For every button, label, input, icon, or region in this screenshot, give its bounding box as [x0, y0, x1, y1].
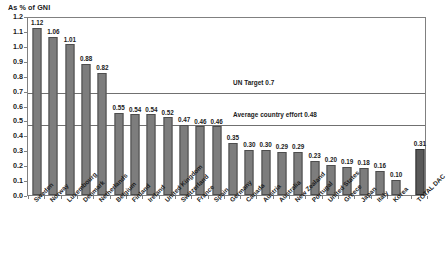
- y-axis-tick-label: 0.3: [13, 148, 23, 155]
- bar-group: 0.88: [78, 18, 94, 195]
- bar-group: 0.29: [290, 18, 306, 195]
- bar-value-label: 0.20: [325, 157, 337, 163]
- bar-value-label: 0.30: [243, 142, 255, 148]
- bar[interactable]: [33, 28, 42, 195]
- bar-value-label: 0.46: [211, 119, 223, 125]
- bar-group: 0.54: [127, 18, 143, 195]
- y-axis-tick-label: 0.2: [13, 163, 23, 170]
- bar-value-label: 1.06: [47, 29, 59, 35]
- bar-group: 0.19: [339, 18, 355, 195]
- bar-group: 0.82: [94, 18, 110, 195]
- bar-value-label: 1.12: [31, 20, 43, 26]
- bar-group: 0.30: [241, 18, 257, 195]
- bar-group: 0.30: [257, 18, 273, 195]
- y-axis-tick-label: 0.5: [13, 118, 23, 125]
- y-axis-tick-label: 0.6: [13, 103, 23, 110]
- bar-value-label: 0.54: [129, 107, 141, 113]
- bar-value-label: 0.47: [178, 117, 190, 123]
- bar-value-label: 0.35: [227, 135, 239, 141]
- y-axis-tick-label: 0.8: [13, 73, 23, 80]
- bar-value-label: 0.54: [145, 107, 157, 113]
- bar-value-label: 0.82: [96, 65, 108, 71]
- y-axis-tick-label: 0.9: [13, 58, 23, 65]
- bar[interactable]: [163, 117, 172, 195]
- bar-group: 0.35: [225, 18, 241, 195]
- bar-group: 0.20: [323, 18, 339, 195]
- bar-group: 0.29: [274, 18, 290, 195]
- bar-group: 1.12: [29, 18, 45, 195]
- y-axis-tick-label: 0.7: [13, 88, 23, 95]
- bar-group: 0.31: [412, 18, 428, 195]
- y-axis-tick-label: 0.4: [13, 133, 23, 140]
- bar-value-label: 0.29: [292, 144, 304, 150]
- bars-layer: 1.121.061.010.880.820.550.540.540.520.47…: [28, 18, 425, 195]
- y-axis-tick-label: 1.0: [13, 43, 23, 50]
- bar-group: 0.52: [160, 18, 176, 195]
- x-axis-labels: SwedenNorwayLuxembourgDenmarkNetherlands…: [27, 199, 426, 260]
- bar-value-label: 0.55: [113, 105, 125, 111]
- y-axis: 0.00.10.20.30.40.50.60.70.80.91.01.11.2: [0, 17, 27, 196]
- bar[interactable]: [212, 126, 221, 195]
- bar-group: 0.16: [372, 18, 388, 195]
- bar-group: 1.06: [45, 18, 61, 195]
- bar-value-label: 0.46: [194, 119, 206, 125]
- bar-group: 0.23: [306, 18, 322, 195]
- bar-group: 0.10: [388, 18, 404, 195]
- plot-area: UN Target 0.7Average country effort 0.48…: [27, 17, 426, 196]
- bar-group: 1.01: [62, 18, 78, 195]
- chart-title: As % of GNI: [8, 3, 50, 12]
- bar-value-label: 0.52: [162, 110, 174, 116]
- y-axis-tick-label: 1.2: [13, 13, 23, 20]
- bar-value-label: 0.19: [341, 159, 353, 165]
- y-axis-tick-label: 0.1: [13, 177, 23, 184]
- bar[interactable]: [65, 44, 74, 195]
- bar-value-label: 1.01: [64, 37, 76, 43]
- bar-value-label: 0.18: [357, 160, 369, 166]
- bar-value-label: 0.16: [374, 163, 386, 169]
- bar-group: 0.55: [111, 18, 127, 195]
- y-axis-tick-label: 0.0: [13, 192, 23, 199]
- bar-group: 0.47: [176, 18, 192, 195]
- bar-group: 0.46: [209, 18, 225, 195]
- bar[interactable]: [228, 143, 237, 195]
- bar-value-label: 0.10: [390, 172, 402, 178]
- bar-value-label: 0.29: [276, 144, 288, 150]
- bar-group: 0.18: [355, 18, 371, 195]
- y-axis-tick-label: 1.1: [13, 28, 23, 35]
- bar-value-label: 0.30: [259, 142, 271, 148]
- bar[interactable]: [49, 37, 58, 195]
- bar-value-label: 0.88: [80, 56, 92, 62]
- bar[interactable]: [98, 73, 107, 195]
- bar-value-label: 0.23: [308, 153, 320, 159]
- bar-group: 0.54: [143, 18, 159, 195]
- bar-value-label: 0.31: [414, 141, 426, 147]
- bar[interactable]: [415, 149, 424, 195]
